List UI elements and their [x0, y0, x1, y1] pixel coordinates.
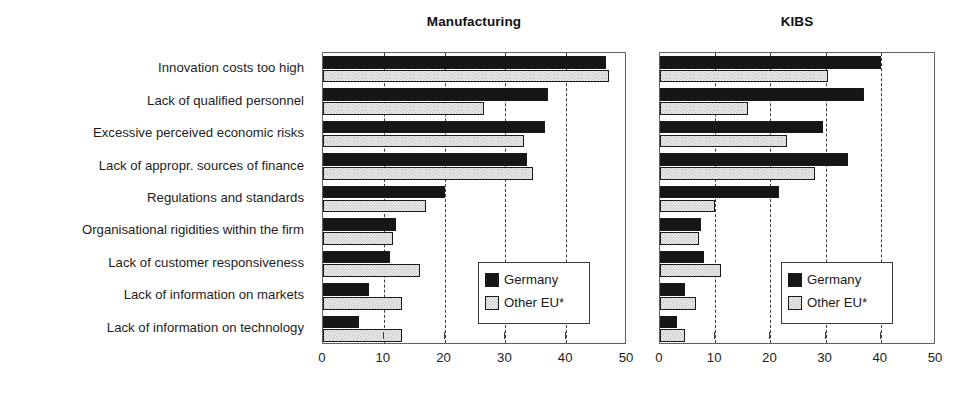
bar-group: [660, 183, 934, 215]
legend-label: Other EU*: [807, 295, 867, 310]
legend-swatch-icon: [788, 273, 802, 287]
bar-other-eu-: [323, 135, 524, 148]
tickmark-40: [565, 332, 566, 339]
legend-swatch-icon: [485, 296, 499, 310]
bar-germany: [323, 283, 369, 296]
legend-item: Other EU*: [788, 291, 885, 314]
bar-germany: [660, 316, 677, 329]
bar-group: [660, 150, 934, 182]
bar-group: [323, 183, 625, 215]
tickmark-10: [383, 332, 384, 339]
bar-group: [660, 118, 934, 150]
bar-other-eu-: [323, 70, 609, 83]
chart-legend: GermanyOther EU*: [478, 262, 590, 324]
bar-germany: [660, 251, 704, 264]
x-axis-labels: 01020304050: [659, 350, 935, 370]
x-tick-label: 30: [817, 350, 832, 365]
bar-group: [660, 53, 934, 85]
legend-label: Germany: [504, 272, 558, 287]
bar-germany: [660, 56, 881, 69]
chart-panel-manufacturing: Manufacturing01020304050GermanyOther EU*: [322, 0, 626, 398]
bar-other-eu-: [660, 70, 828, 83]
bar-germany: [323, 251, 390, 264]
category-label: Innovation costs too high: [158, 61, 304, 74]
panel-title: Manufacturing: [322, 14, 626, 29]
bar-other-eu-: [660, 264, 721, 277]
bar-germany: [323, 88, 548, 101]
category-label: Lack of qualified personnel: [147, 94, 304, 107]
legend-swatch-icon: [485, 273, 499, 287]
category-label: Regulations and standards: [147, 191, 304, 204]
bar-other-eu-: [660, 102, 748, 115]
bar-germany: [323, 56, 606, 69]
bar-group: [323, 150, 625, 182]
bar-germany: [323, 186, 445, 199]
bar-other-eu-: [323, 102, 484, 115]
x-tick-label: 40: [872, 350, 887, 365]
bar-other-eu-: [323, 297, 402, 310]
tickmark-30: [504, 332, 505, 339]
bar-germany: [323, 153, 527, 166]
category-label: Lack of customer responsiveness: [108, 256, 304, 269]
legend-item: Germany: [788, 268, 885, 291]
x-tickmarks: [659, 332, 935, 352]
bar-group: [660, 85, 934, 117]
tickmark-40: [880, 332, 881, 339]
tickmark-20: [444, 332, 445, 339]
legend-label: Other EU*: [504, 295, 564, 310]
x-tick-label: 40: [558, 350, 573, 365]
x-tickmarks: [322, 332, 626, 352]
bar-other-eu-: [323, 200, 426, 213]
category-label: Lack of information on technology: [107, 321, 304, 334]
legend-item: Germany: [485, 268, 582, 291]
legend-swatch-icon: [788, 296, 802, 310]
category-label: Lack of information on markets: [124, 288, 304, 301]
bar-group: [323, 118, 625, 150]
x-tick-label: 20: [762, 350, 777, 365]
panel-title: KIBS: [659, 14, 935, 29]
bar-group: [323, 215, 625, 247]
bar-germany: [660, 218, 701, 231]
x-tick-label: 20: [436, 350, 451, 365]
bar-germany: [660, 186, 779, 199]
chart-panel-kibs: KIBS01020304050GermanyOther EU*: [659, 0, 935, 398]
bar-other-eu-: [323, 167, 533, 180]
bar-other-eu-: [660, 297, 696, 310]
bar-other-eu-: [660, 200, 715, 213]
bar-germany: [660, 121, 823, 134]
chart-legend: GermanyOther EU*: [781, 262, 893, 324]
bar-group: [660, 215, 934, 247]
x-tick-label: 0: [655, 350, 662, 365]
bar-group: [323, 85, 625, 117]
bar-germany: [323, 121, 545, 134]
bar-germany: [323, 316, 359, 329]
bar-other-eu-: [660, 232, 699, 245]
tickmark-10: [714, 332, 715, 339]
category-label: Lack of appropr. sources of finance: [99, 159, 304, 172]
bar-other-eu-: [323, 232, 393, 245]
bar-other-eu-: [660, 167, 815, 180]
x-tick-label: 0: [318, 350, 325, 365]
bar-germany: [323, 218, 396, 231]
bar-germany: [660, 283, 685, 296]
legend-label: Germany: [807, 272, 861, 287]
legend-item: Other EU*: [485, 291, 582, 314]
chart-figure: Innovation costs too highLack of qualifi…: [0, 0, 969, 398]
category-label: Excessive perceived economic risks: [93, 126, 304, 139]
x-tick-label: 10: [707, 350, 722, 365]
category-label: Organisational rigidities within the fir…: [82, 223, 304, 236]
x-axis-labels: 01020304050: [322, 350, 626, 370]
x-tick-label: 50: [928, 350, 943, 365]
bar-other-eu-: [323, 264, 420, 277]
category-label-column: Innovation costs too highLack of qualifi…: [0, 52, 312, 344]
x-tick-label: 50: [619, 350, 634, 365]
bar-germany: [660, 88, 864, 101]
x-tick-label: 30: [497, 350, 512, 365]
x-tick-label: 10: [375, 350, 390, 365]
bar-germany: [660, 153, 848, 166]
bar-other-eu-: [660, 135, 787, 148]
tickmark-20: [769, 332, 770, 339]
tickmark-30: [825, 332, 826, 339]
bar-group: [323, 53, 625, 85]
